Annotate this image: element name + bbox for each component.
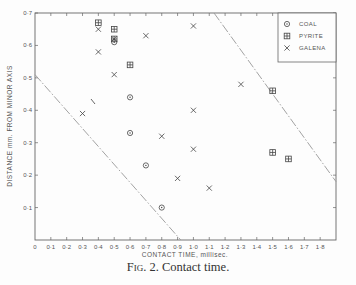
x-tick-label: 0 [33, 244, 37, 250]
legend: COALPYRITEGALENA [278, 13, 336, 62]
boxed-plus-marker [286, 156, 292, 162]
x-tick-label: 0·6 [126, 244, 135, 250]
boxed-plus-marker [111, 26, 117, 32]
x-marker [207, 186, 212, 191]
circle-dot-marker [143, 163, 148, 168]
y-tick-label: 0·1 [23, 205, 32, 211]
scatter-chart: 00·10·20·30·40·50·60·70·80·91·01·11·21·3… [0, 0, 356, 260]
x-marker [96, 27, 101, 32]
data-points [80, 20, 291, 210]
y-axis-tick-labels: 0·10·20·30·40·50·60·7 [23, 10, 32, 211]
x-marker [96, 49, 101, 54]
circle-dot-marker [127, 95, 132, 100]
x-marker [191, 108, 196, 113]
y-tick-label: 0·5 [23, 75, 32, 81]
x-marker [159, 134, 164, 139]
y-axis-title: DISTANCE mm. FROM MINOR AXIS [6, 65, 13, 187]
figure-number: Fig. 2. [127, 260, 159, 274]
figure-caption: Fig. 2. Contact time. [0, 260, 356, 275]
x-tick-label: 1·6 [284, 244, 293, 250]
y-tick-label: 0·7 [23, 10, 32, 16]
x-marker [238, 82, 243, 87]
boundary-line [35, 75, 181, 240]
x-marker [191, 147, 196, 152]
x-tick-label: 0·4 [94, 244, 103, 250]
y-tick-label: 0·6 [23, 42, 32, 48]
legend-label: GALENA [299, 45, 326, 51]
x-axis-tick-labels: 00·10·20·30·40·50·60·70·80·91·01·11·21·3… [33, 244, 325, 250]
x-marker [191, 23, 196, 28]
x-tick-label: 1·3 [237, 244, 246, 250]
x-tick-label: 0·8 [157, 244, 166, 250]
y-tick-label: 0·2 [23, 172, 32, 178]
x-marker [175, 176, 180, 181]
x-tick-label: 0·7 [142, 244, 151, 250]
boxed-plus-marker [270, 88, 276, 94]
x-marker [112, 72, 117, 77]
x-marker [143, 33, 148, 38]
legend-label: PYRITE [299, 33, 323, 39]
x-tick-label: 0·2 [62, 244, 71, 250]
x-tick-label: 0·1 [47, 244, 56, 250]
x-tick-label: 1·5 [268, 244, 277, 250]
x-tick-label: 0·3 [78, 244, 87, 250]
y-tick-label: 0·4 [23, 107, 32, 113]
x-tick-label: 1·7 [300, 244, 309, 250]
legend-item: PYRITE [284, 33, 323, 39]
circle-dot-marker [159, 205, 164, 210]
legend-label: COAL [299, 21, 317, 27]
x-tick-label: 1·4 [252, 244, 261, 250]
x-marker [80, 111, 85, 116]
x-tick-label: 1·2 [221, 244, 230, 250]
boxed-plus-marker [96, 20, 102, 26]
x-tick-label: 0·5 [110, 244, 119, 250]
figure-caption-text: Contact time. [162, 260, 229, 274]
boxed-plus-marker [270, 150, 276, 156]
x-tick-label: 1·1 [205, 244, 214, 250]
boxed-plus-marker [127, 62, 133, 68]
y-tick-label: 0·3 [23, 140, 32, 146]
circle-dot-marker [127, 130, 132, 135]
stray-mark [91, 99, 95, 104]
x-axis-title: CONTACT TIME, millisec. [142, 251, 228, 258]
x-tick-label: 1·0 [189, 244, 198, 250]
x-tick-label: 1·8 [316, 244, 325, 250]
x-tick-label: 0·9 [173, 244, 182, 250]
